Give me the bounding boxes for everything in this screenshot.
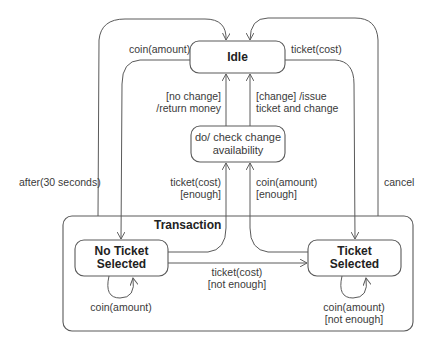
- change-label-2: ticket and change: [256, 102, 338, 114]
- self-coin-right-label-1: coin(amount): [323, 301, 384, 313]
- after-30-seconds-label: after(30 seconds): [19, 176, 101, 188]
- ticket-not-enough-label-2: [not enough]: [208, 278, 266, 290]
- idle-state[interactable]: Idle: [190, 41, 285, 73]
- coin-enough-label-1: coin(amount): [256, 176, 317, 188]
- coin-amount-transition: [121, 60, 190, 239]
- ticket-cost-transition: [285, 60, 355, 239]
- ticket-selected-line2: Selected: [330, 257, 379, 271]
- cancel-label: cancel: [384, 176, 414, 188]
- check-change-line2: availability: [213, 144, 264, 156]
- check-change-line1: do/ check change: [195, 131, 281, 143]
- coin-amount-label: coin(amount): [129, 43, 190, 55]
- check-change-state[interactable]: do/ check change availability: [191, 126, 285, 162]
- ticket-cost-label: ticket(cost): [291, 43, 342, 55]
- no-change-label-1: [no change]: [166, 90, 221, 102]
- change-label-1: [change] /issue: [256, 90, 327, 102]
- no-ticket-line1: No Ticket: [95, 244, 149, 258]
- coin-enough-label-2: [enough]: [256, 188, 297, 200]
- self-coin-right-label-2: [not enough]: [325, 313, 383, 325]
- no-ticket-line2: Selected: [97, 257, 146, 271]
- no-ticket-selected-state[interactable]: No Ticket Selected: [75, 240, 168, 276]
- transaction-label: Transaction: [154, 218, 221, 232]
- idle-label: Idle: [227, 50, 248, 64]
- ticket-selected-state[interactable]: Ticket Selected: [308, 240, 401, 276]
- ticket-selected-line1: Ticket: [337, 244, 371, 258]
- no-change-label-2: /return money: [156, 102, 222, 114]
- ticket-enough-label-1: ticket(cost): [170, 176, 221, 188]
- state-diagram: Transaction Idle do/ check change availa…: [0, 0, 431, 346]
- ticket-not-enough-label-1: ticket(cost): [212, 266, 263, 278]
- ticket-enough-label-2: [enough]: [180, 188, 221, 200]
- self-coin-left-label: coin(amount): [90, 301, 151, 313]
